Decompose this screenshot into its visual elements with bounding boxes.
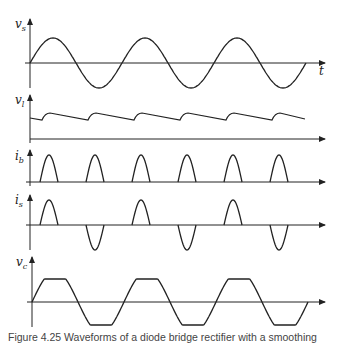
vl-label: vl	[15, 93, 25, 109]
waveform-figure: vs t vl ib is vc	[0, 0, 341, 344]
panel-is: is	[15, 193, 325, 250]
is-label: is	[15, 193, 23, 209]
vs-label: vs	[15, 17, 26, 33]
panel-vc: vc	[16, 255, 325, 327]
panel-vl: vl	[15, 93, 325, 143]
panel-ib: ib	[15, 149, 325, 186]
vl-waveform	[30, 113, 305, 120]
time-axis-label: t	[319, 64, 324, 78]
vc-label: vc	[16, 255, 28, 271]
ib-label: ib	[15, 149, 24, 165]
ib-waveform	[40, 155, 288, 182]
figure-caption: Figure 4.25 Waveforms of a diode bridge …	[8, 331, 341, 343]
panel-vs: vs t	[15, 17, 325, 88]
